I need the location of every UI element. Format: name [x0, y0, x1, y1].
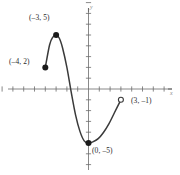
label-local-minimum: (0, –5) [92, 146, 113, 155]
y-axis-label: y [90, 4, 93, 10]
label-local-maximum: (–3, 5) [29, 13, 50, 22]
graph-figure: (–3, 5) (–4, 2) (0, –5) (3, –1) y x [0, 0, 180, 175]
point-right-endpoint [118, 97, 123, 102]
label-left-endpoint: (–4, 2) [9, 57, 30, 66]
x-axis-label: x [170, 90, 173, 96]
axes-group [8, 8, 172, 170]
point-local-minimum [86, 140, 92, 146]
coordinate-plane [0, 0, 180, 175]
point-local-maximum [53, 32, 59, 38]
point-left-endpoint [42, 64, 48, 70]
label-right-endpoint: (3, –1) [131, 96, 152, 105]
